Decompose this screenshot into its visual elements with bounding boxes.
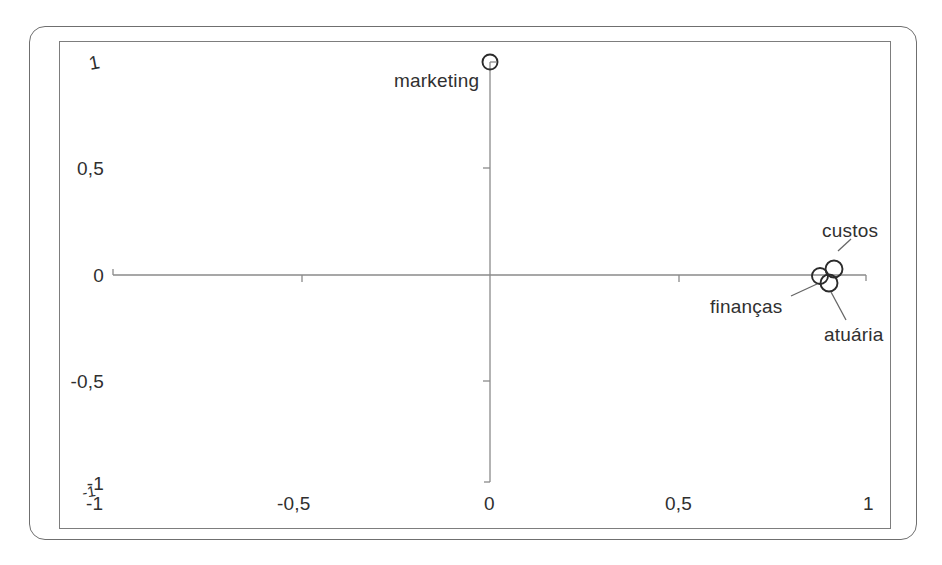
annotation-label-marketing: marketing <box>394 70 479 92</box>
y-tick-label-neg-0-5: -0,5 <box>60 371 104 393</box>
x-tick-label-0-5: 0,5 <box>665 493 692 515</box>
x-tick-label-1: 1 <box>863 493 874 515</box>
annotation-label-custos: custos <box>822 220 878 242</box>
x-tick-label-neg-0-5: -0,5 <box>277 493 311 515</box>
x-tick-label-neg-1: -1 <box>86 493 103 515</box>
annotation-label-financas: finanças <box>710 296 782 318</box>
x-tick-label-0: 0 <box>484 493 495 515</box>
y-tick-label-0-5: 0,5 <box>68 158 104 180</box>
plot-area-frame <box>59 41 891 529</box>
scatter-plot-figure: 1 0,5 0 -0,5 -1 -1 -1 -0,5 0 0,5 1 marke… <box>0 0 942 565</box>
y-tick-label-0: 0 <box>68 265 104 287</box>
annotation-label-atuaria: atuária <box>824 324 884 346</box>
